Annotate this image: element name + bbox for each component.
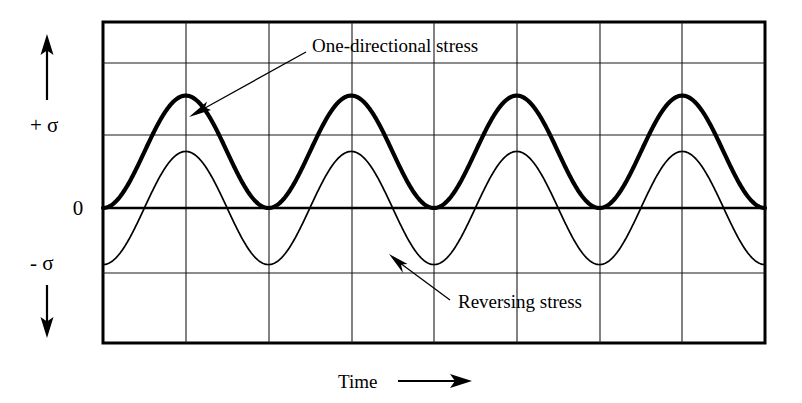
y-axis-positive-group: + σ bbox=[30, 34, 58, 137]
y-axis-label-positive: + σ bbox=[30, 113, 58, 137]
y-axis-label-negative: - σ bbox=[30, 251, 54, 275]
vertical-gridlines bbox=[186, 22, 682, 343]
stress-time-chart: + σ 0 - σ One-directional stress Reversi… bbox=[0, 0, 802, 403]
one-directional-leader-line bbox=[205, 52, 306, 108]
reversing-leader-line bbox=[400, 263, 450, 300]
reversing-annotation-label: Reversing stress bbox=[458, 291, 582, 312]
reversing-arrow-icon bbox=[389, 254, 408, 273]
annotation-reversing: Reversing stress bbox=[389, 254, 582, 312]
one-directional-annotation-label: One-directional stress bbox=[312, 35, 478, 56]
y-axis-zero-group: 0 bbox=[73, 196, 84, 220]
y-axis-label-zero: 0 bbox=[73, 196, 84, 220]
x-axis-label: Time bbox=[338, 371, 377, 392]
figure-root: + σ 0 - σ One-directional stress Reversi… bbox=[0, 0, 802, 403]
y-axis-negative-group: - σ bbox=[30, 251, 54, 338]
x-axis-group: Time bbox=[338, 371, 472, 392]
